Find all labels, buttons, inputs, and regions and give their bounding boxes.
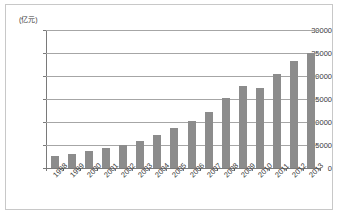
x-tick-label: 2001 <box>102 161 120 179</box>
x-tick-label: 2011 <box>273 162 291 180</box>
x-tick-label: 2009 <box>239 161 257 179</box>
x-tick-label: 1999 <box>68 161 86 179</box>
x-axis-tick-labels: 1998199920002001200220032004200520062007… <box>6 5 332 209</box>
x-tick-label: 2008 <box>222 161 240 179</box>
x-tick-label: 2005 <box>170 161 188 179</box>
x-tick-label: 2000 <box>85 161 103 179</box>
x-tick-label: 2004 <box>153 161 171 179</box>
x-tick-label: 2010 <box>256 161 274 179</box>
x-tick-label: 2006 <box>188 161 206 179</box>
chart-figure: (亿元) 050001000015000200002500030000 1998… <box>5 4 333 210</box>
x-tick-label: 1998 <box>51 161 69 179</box>
x-tick-label: 2002 <box>119 161 137 179</box>
x-tick-label: 2007 <box>205 161 223 179</box>
x-tick-label: 2003 <box>136 161 154 179</box>
x-tick-label: 2013 <box>307 161 325 179</box>
x-tick-label: 2012 <box>290 161 308 179</box>
